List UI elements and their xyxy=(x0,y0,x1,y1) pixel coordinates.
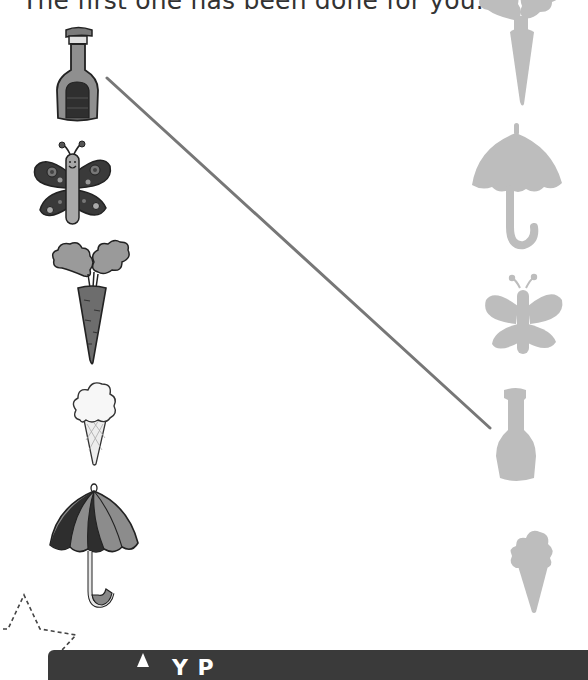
umbrella-silhouette-icon xyxy=(468,123,564,249)
butterfly-silhouette-icon xyxy=(480,272,566,356)
instruction-text: The first one has been done for you. xyxy=(22,0,484,15)
footer-banner-text: Y P xyxy=(172,655,215,680)
bottle-silhouette-icon xyxy=(494,386,538,484)
butterfly-silhouette[interactable] xyxy=(480,272,566,356)
bottle-icon xyxy=(52,26,102,124)
butterfly-picture[interactable] xyxy=(30,142,114,226)
triangle-icon xyxy=(137,653,149,667)
umbrella-silhouette[interactable] xyxy=(468,123,564,249)
carrot-icon xyxy=(48,240,134,368)
butterfly-icon xyxy=(30,142,114,226)
bottle-silhouette[interactable] xyxy=(494,386,538,484)
carrot-silhouette[interactable] xyxy=(474,0,566,108)
bottle-picture[interactable] xyxy=(52,26,102,124)
ice-cream-silhouette[interactable] xyxy=(508,528,556,614)
carrot-silhouette-icon xyxy=(474,0,566,108)
ice-cream-silhouette-icon xyxy=(508,528,556,614)
footer-banner xyxy=(48,650,588,680)
ice-cream-icon xyxy=(72,380,118,468)
ice-cream-picture[interactable] xyxy=(72,380,118,468)
carrot-picture[interactable] xyxy=(48,240,134,368)
